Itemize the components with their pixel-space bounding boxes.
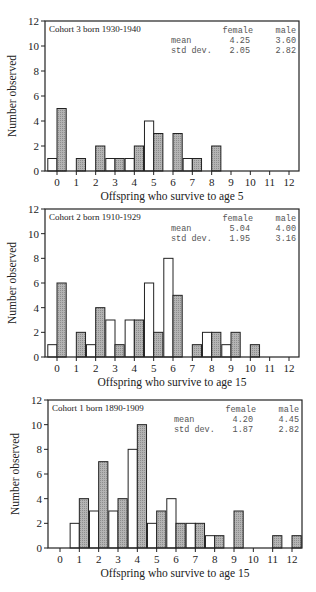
bar-female — [128, 449, 137, 548]
x-tick-label: 6 — [170, 176, 176, 188]
stats-row-label: mean — [171, 224, 191, 234]
x-tick-label: 9 — [228, 176, 234, 188]
chart-panel-cohort2: 024681012Number observed0123456789101112… — [6, 203, 299, 389]
bar-male — [157, 511, 166, 548]
x-tick-label: 12 — [284, 176, 295, 188]
bar-male — [292, 536, 301, 548]
chart-panel-cohort1: 024681012Number observed0123456789101112… — [9, 394, 302, 580]
x-tick-label: 4 — [135, 553, 141, 565]
bar-female — [125, 159, 134, 172]
y-tick-label: 12 — [31, 394, 42, 406]
bar-female — [70, 523, 79, 548]
bar-male — [57, 283, 66, 357]
y-tick-label: 0 — [34, 165, 40, 177]
stats-male-value: 4.00 — [276, 224, 296, 234]
bar-female — [144, 283, 153, 357]
x-tick-label: 7 — [193, 553, 199, 565]
stats-table: femalemalemean5.044.00std dev.1.953.16 — [171, 214, 296, 244]
y-tick-label: 8 — [37, 443, 43, 455]
y-tick-label: 0 — [34, 351, 40, 363]
y-axis-label: Number observed — [6, 55, 18, 137]
y-tick-label: 0 — [37, 542, 43, 554]
bar-male — [215, 536, 224, 548]
bar-female — [167, 499, 176, 548]
bar-female — [89, 511, 98, 548]
stats-header-male: male — [276, 214, 296, 224]
bar-male — [173, 134, 182, 172]
bar-female — [183, 159, 192, 172]
stats-male-value: 4.45 — [279, 415, 299, 425]
bar-male — [76, 159, 85, 172]
x-tick-label: 8 — [209, 362, 215, 374]
stats-male-value: 2.82 — [276, 46, 296, 56]
stats-female-value: 4.20 — [233, 415, 253, 425]
x-tick-label: 1 — [74, 362, 80, 374]
stats-female-value: 2.05 — [230, 46, 250, 56]
x-tick-label: 9 — [231, 553, 237, 565]
bar-female — [144, 121, 153, 171]
y-tick-label: 8 — [34, 65, 40, 77]
y-tick-label: 10 — [28, 40, 40, 52]
bars — [70, 425, 301, 548]
stats-table: femalemalemean4.204.45std dev.1.872.82 — [174, 405, 299, 435]
stats-table: femalemalemean4.253.60std dev.2.052.82 — [171, 26, 296, 56]
y-axis: 024681012Number observed — [9, 394, 48, 554]
stats-header-male: male — [276, 26, 296, 36]
x-tick-label: 3 — [115, 553, 121, 565]
chart-panels: 024681012Number observed0123456789101112… — [6, 15, 302, 580]
bar-female — [86, 345, 95, 357]
y-tick-label: 10 — [28, 228, 40, 240]
stats-female-value: 1.87 — [233, 425, 253, 435]
bar-male — [79, 499, 88, 548]
bar-male — [154, 332, 163, 357]
bar-male — [96, 308, 105, 357]
bar-female — [106, 320, 115, 357]
bar-male — [99, 462, 108, 548]
y-tick-label: 6 — [34, 90, 40, 102]
y-tick-label: 2 — [34, 326, 40, 338]
x-tick-label: 2 — [93, 176, 99, 188]
bar-male — [192, 345, 201, 357]
y-tick-label: 6 — [34, 277, 40, 289]
y-tick-label: 6 — [37, 468, 43, 480]
bar-male — [76, 332, 85, 357]
cohort-label: Cohort 3 born 1930-1940 — [49, 24, 141, 34]
chart-panel-cohort3: 024681012Number observed0123456789101112… — [6, 15, 299, 203]
y-tick-label: 2 — [34, 140, 40, 152]
x-tick-label: 10 — [248, 553, 260, 565]
bar-male — [192, 159, 201, 172]
x-axis-label: Offspring who survive to age 15 — [101, 567, 250, 580]
stats-row-label: std dev. — [174, 425, 215, 435]
stats-row-label: mean — [174, 415, 194, 425]
x-tick-label: 5 — [151, 176, 157, 188]
stats-male-value: 3.60 — [276, 36, 296, 46]
bars — [48, 109, 221, 172]
y-tick-label: 4 — [34, 302, 40, 314]
x-tick-label: 0 — [57, 553, 63, 565]
bar-male — [250, 345, 259, 357]
x-tick-label: 11 — [264, 176, 275, 188]
x-tick-label: 3 — [112, 362, 118, 374]
stats-row-label: mean — [171, 36, 191, 46]
x-tick-label: 1 — [77, 553, 83, 565]
bar-female — [106, 159, 115, 172]
bar-male — [96, 146, 105, 171]
y-axis-label: Number observed — [6, 242, 18, 324]
stats-row-label: std dev. — [171, 234, 212, 244]
stats-female-value: 1.95 — [230, 234, 250, 244]
x-tick-label: 2 — [93, 362, 99, 374]
bar-female — [222, 345, 231, 357]
stats-header-female: female — [225, 405, 256, 415]
x-tick-label: 12 — [287, 553, 298, 565]
x-tick-label: 10 — [245, 176, 257, 188]
stats-row-label: std dev. — [171, 46, 212, 56]
x-tick-label: 4 — [132, 362, 138, 374]
cohort-label: Cohort 1 born 1890-1909 — [52, 403, 144, 413]
bar-female — [48, 345, 57, 357]
x-tick-label: 10 — [245, 362, 257, 374]
bar-female — [164, 258, 173, 357]
x-tick-label: 8 — [209, 176, 215, 188]
bar-male — [134, 146, 143, 171]
x-tick-label: 12 — [284, 362, 295, 374]
bar-male — [195, 523, 204, 548]
